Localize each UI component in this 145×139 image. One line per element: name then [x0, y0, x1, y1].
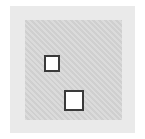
small-square	[44, 55, 60, 72]
large-square	[64, 90, 84, 111]
